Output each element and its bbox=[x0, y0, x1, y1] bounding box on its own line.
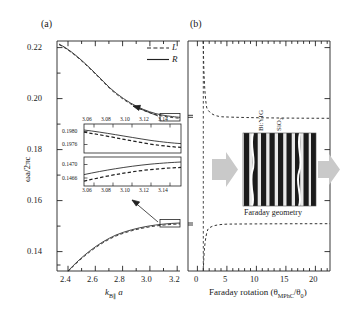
panel-b-xtick-4: 20 bbox=[309, 274, 318, 284]
stack-label-sio2-sub: 2 bbox=[279, 118, 284, 120]
panel-b-plot bbox=[0, 0, 347, 316]
panel-b-curve-upper bbox=[203, 41, 330, 118]
panel-b-xlabel: Faraday rotation (θMPhC/θ0) bbox=[209, 287, 307, 299]
stack-label-biyig: Bi:YIG bbox=[257, 110, 265, 131]
panel-b-xtick-0: 0 bbox=[194, 274, 198, 284]
panel-b-xlabel-sub1: MPhC bbox=[278, 293, 294, 299]
panel-b-curve-lower bbox=[203, 224, 330, 271]
panel-b-xtick-1: 5 bbox=[223, 274, 227, 284]
panel-b-xtick-3: 15 bbox=[280, 274, 289, 284]
stack-label-sio2: SiO2 bbox=[275, 118, 284, 131]
stack-label-sio2-base: SiO bbox=[275, 120, 283, 131]
panel-b-xlabel-mid: /θ bbox=[294, 287, 301, 297]
faraday-geometry-caption: Faraday geometry bbox=[244, 208, 302, 217]
multilayer-stack-schematic bbox=[212, 133, 340, 206]
panel-b-xlabel-main: Faraday rotation (θ bbox=[209, 287, 278, 297]
stack-layers bbox=[243, 133, 316, 206]
panel-b-xtick-2: 10 bbox=[250, 274, 259, 284]
figure-container: (a) (b) bbox=[0, 0, 347, 316]
panel-b-xlabel-end: ) bbox=[304, 287, 307, 297]
